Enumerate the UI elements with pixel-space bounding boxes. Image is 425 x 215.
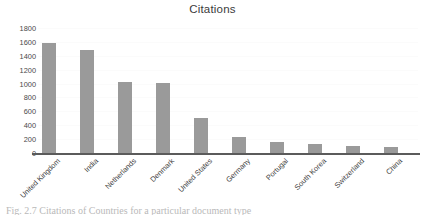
bar	[308, 144, 322, 153]
bar	[42, 43, 56, 153]
y-axis-tick-label: 1000	[2, 79, 36, 88]
x-axis-labels: United KingdomIndiaNetherlandsDenmarkUni…	[38, 155, 418, 203]
x-axis-tick-label-text: India	[82, 155, 101, 174]
y-axis-tick-label: 1600	[2, 37, 36, 46]
citations-bar-chart-figure: Citations 020040060080010001200140016001…	[0, 0, 425, 215]
chart-title: Citations	[0, 3, 425, 15]
y-axis-tick-label: 1200	[2, 65, 36, 74]
x-axis-tick-label-text: Netherlands	[103, 155, 139, 191]
x-axis-tick-label-text: Switzerland	[333, 155, 368, 190]
y-axis-tick-label: 200	[2, 135, 36, 144]
bar	[118, 82, 132, 153]
x-axis-tick-label-text: Denmark	[148, 155, 177, 184]
y-axis-tick-label: 600	[2, 107, 36, 116]
bar	[270, 142, 284, 153]
bar	[346, 146, 360, 153]
x-axis-tick-label-text: South Korea	[293, 155, 330, 192]
x-axis-tick-label-text: United Kingdom	[18, 155, 63, 200]
y-axis-tick-label: 400	[2, 121, 36, 130]
y-axis: 020040060080010001200140016001800	[0, 28, 36, 154]
figure-caption: Fig. 2.7 Citations of Countries for a pa…	[6, 205, 425, 215]
y-axis-tick-label: 1400	[2, 51, 36, 60]
y-axis-tick-label: 0	[2, 149, 36, 158]
y-axis-tick-label: 1800	[2, 24, 36, 33]
x-axis-tick-label-text: Portugal	[264, 155, 291, 182]
y-axis-tick-label: 800	[2, 93, 36, 102]
x-axis-tick-label-text: United States	[176, 155, 215, 194]
x-axis-tick-label-text: China	[384, 155, 405, 176]
x-axis-tick-label-text: Germany	[224, 155, 253, 184]
